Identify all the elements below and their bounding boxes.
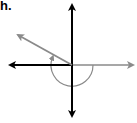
terminal-side-ray bbox=[18, 35, 72, 65]
angle-diagram bbox=[0, 0, 137, 123]
